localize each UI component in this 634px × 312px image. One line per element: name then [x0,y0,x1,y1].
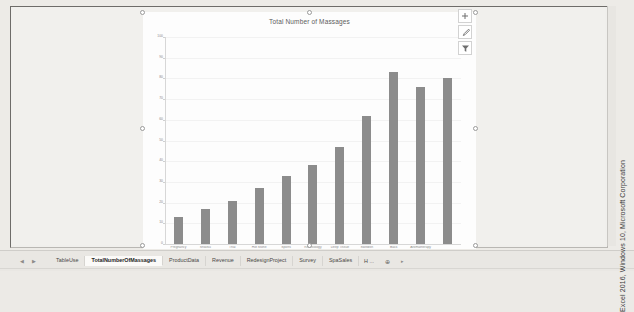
bar-slot[interactable] [300,37,327,244]
sheet-tab-bar[interactable]: ◀ ▶ TableUseTotalNumberOfMassagesProduct… [0,250,634,271]
sheet-tab[interactable]: ProductData [163,256,206,265]
bar[interactable] [416,87,425,244]
sheet-tab[interactable]: TableUse [50,256,85,265]
chart-elements-button[interactable] [458,9,472,23]
chart-object[interactable]: Total Number of Massages 010203040506070… [143,12,476,249]
selection-handle-top-center[interactable] [307,10,312,15]
bar-slot[interactable] [326,37,353,244]
sheet-tab[interactable]: Revenue [206,256,241,265]
bar-slot[interactable] [192,37,219,244]
sheet-scroll-end[interactable]: ▸ [397,258,408,264]
bar-slot[interactable] [246,37,273,244]
x-axis-line [165,244,461,245]
sheet-tab[interactable]: Survey [293,256,323,265]
worksheet-right-pane [607,6,616,246]
sheet-tabs[interactable]: TableUseTotalNumberOfMassagesProductData… [50,256,359,266]
selection-handle-bottom-right[interactable] [473,243,478,248]
selection-handle-middle-right[interactable] [473,126,478,131]
bar[interactable] [389,72,398,244]
bar[interactable] [201,209,210,244]
brush-icon [461,28,470,37]
bar-slot[interactable] [219,37,246,244]
selection-handle-bottom-left[interactable] [140,243,145,248]
chart-side-buttons[interactable] [458,9,473,57]
sheet-tab[interactable]: RedesignProject [241,256,294,265]
bar[interactable] [255,188,264,244]
chart-filters-button[interactable] [458,41,472,55]
add-sheet-button[interactable]: ⊕ [383,256,393,266]
caption-anchor: Excel 2016, Windows 10, Microsoft Corpor… [621,84,622,85]
funnel-icon [461,44,470,53]
sheet-tab[interactable]: TotalNumberOfMassages [85,256,163,266]
selection-handle-bottom-center[interactable] [307,243,312,248]
y-axis-tick-mark [163,244,165,245]
sheet-nav-buttons[interactable]: ◀ ▶ [16,255,40,267]
sheet-tab[interactable]: SpaSales [323,256,359,265]
bar-slot[interactable] [353,37,380,244]
sheet-nav-prev-icon[interactable]: ◀ [16,255,28,267]
sheet-nav-next-icon[interactable]: ▶ [28,255,40,267]
selection-handle-top-left[interactable] [140,10,145,15]
selection-handle-middle-left[interactable] [140,126,145,131]
bar[interactable] [174,217,183,244]
bar-slot[interactable] [380,37,407,244]
chart-title[interactable]: Total Number of Massages [143,18,476,25]
bar[interactable] [335,147,344,244]
bar[interactable] [228,201,237,244]
bar-slot[interactable] [434,37,461,244]
selection-handle-top-right[interactable] [473,10,478,15]
bar-slot[interactable] [273,37,300,244]
sheet-tab-overflow[interactable]: H ... [359,256,379,266]
bar-slot[interactable] [407,37,434,244]
bar[interactable] [308,165,317,244]
chart-styles-button[interactable] [458,25,472,39]
bar[interactable] [362,116,371,244]
bar-series[interactable] [165,37,461,244]
tab-bar-rule [0,268,634,269]
bar[interactable] [443,78,452,244]
plus-icon [461,12,469,20]
bar[interactable] [282,176,291,244]
bar-slot[interactable] [165,37,192,244]
application-caption: Excel 2016, Windows 10, Microsoft Corpor… [619,160,626,312]
